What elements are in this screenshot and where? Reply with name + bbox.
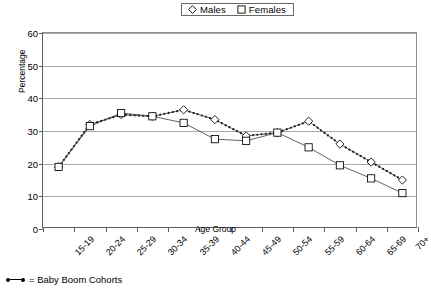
data-point-females-30-34: [149, 113, 156, 120]
x-tick-label: 70+: [414, 234, 431, 252]
x-tick-label: 15-19: [72, 234, 95, 257]
plot-area: Percentage 0102030405060 15-1920-2425-29…: [42, 32, 417, 228]
series-line-females: [59, 113, 403, 193]
legend-label-males: Males: [200, 5, 226, 15]
data-point-females-65-69: [368, 175, 375, 182]
data-point-males-55-59: [305, 117, 313, 125]
data-point-females-60-64: [336, 162, 343, 169]
series-lines: [43, 33, 418, 229]
y-axis-title: Percentage: [17, 50, 27, 93]
square-icon: [237, 5, 246, 14]
data-point-females-40-44: [211, 136, 218, 143]
data-point-females-70+: [399, 189, 406, 196]
data-point-females-45-49: [243, 137, 250, 144]
data-point-females-55-59: [305, 144, 312, 151]
x-tick-label: 20-24: [104, 234, 127, 257]
data-point-females-35-39: [180, 119, 187, 126]
footnote-text: = Baby Boom Cohorts: [29, 274, 122, 285]
data-point-females-20-24: [86, 123, 93, 130]
chart-legend: Males Females: [181, 3, 294, 16]
x-tick-label: 55-59: [322, 234, 345, 257]
legend-entry-females: Females: [237, 5, 286, 15]
data-point-females-25-29: [118, 109, 125, 116]
x-tick-label: 25-29: [135, 234, 158, 257]
x-tick-label: 30-34: [166, 234, 189, 257]
x-axis-title: Age Group: [0, 224, 431, 234]
data-point-males-70+: [398, 176, 406, 184]
x-tick-label: 60-64: [354, 234, 377, 257]
x-tick-label: 35-39: [197, 234, 220, 257]
legend-entry-males: Males: [188, 5, 226, 15]
data-point-females-15-19: [55, 163, 62, 170]
data-point-females-50-54: [274, 129, 281, 136]
legend-label-females: Females: [249, 5, 286, 15]
x-tick-label: 50-54: [291, 234, 314, 257]
data-point-males-35-39: [180, 106, 188, 114]
diamond-icon: [188, 5, 197, 14]
baby-boom-marker-icon: [6, 276, 25, 284]
footnote: = Baby Boom Cohorts: [6, 274, 122, 285]
x-tick-label: 65-69: [385, 234, 408, 257]
x-tick-label: 40-44: [229, 234, 252, 257]
data-point-males-40-44: [211, 115, 219, 123]
x-tick-label: 45-49: [260, 234, 283, 257]
data-point-males-60-64: [336, 140, 344, 148]
data-point-males-65-69: [367, 158, 375, 166]
chart-container: Males Females Percentage 0102030405060 1…: [0, 0, 431, 293]
